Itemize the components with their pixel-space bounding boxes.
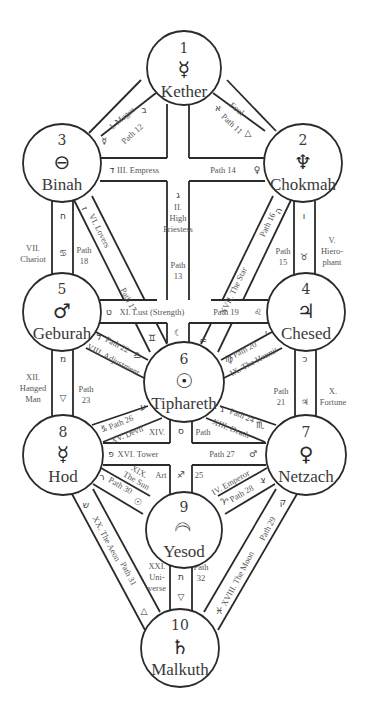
path-25-card-line1: XIV. <box>149 427 165 437</box>
hebrew-nun-icon: נ <box>220 404 224 414</box>
path-32-card-line3: verse <box>148 583 166 593</box>
sephirah-netzach[interactable]: 7 ♀ Netzach <box>266 415 346 495</box>
mercury-icon: ☿ <box>178 57 190 81</box>
earth-bar-icon: ⊖ <box>54 150 71 174</box>
path-21-number-line2: 21 <box>277 397 286 407</box>
path-21-card-line2: Fortune <box>320 397 347 407</box>
sephirah-name: Hod <box>48 467 78 486</box>
path-15-card-line2: Hiero- <box>321 246 343 256</box>
path-32-card-line2: Uni- <box>149 572 165 582</box>
path-25-number-line1: Path <box>195 427 211 437</box>
sephirah-name: Chokmah <box>270 175 337 194</box>
neptune-icon: ♆ <box>294 150 312 174</box>
earth-triangle-icon: ▽ <box>178 592 185 602</box>
tree-of-life-diagram: א Fool △ Path 11 ב I. Magus ☿ Path 12 ד … <box>0 0 368 720</box>
path-18-number-line2: 18 <box>80 256 89 266</box>
sun-small-icon: ☉ <box>134 497 142 507</box>
sephirah-chesed[interactable]: 4 ♃ Chesed <box>267 273 345 351</box>
aries-icon: ♈ <box>220 497 229 507</box>
cancer-icon: ♋ <box>59 248 67 258</box>
hebrew-lamed-icon: ל <box>96 332 101 342</box>
sephirah-hod[interactable]: 8 ☿ Hod <box>23 415 103 495</box>
hebrew-gimel-icon: ג <box>176 190 180 200</box>
hebrew-teth-icon: ט <box>106 307 112 317</box>
hebrew-samekh-icon: ס <box>178 426 184 436</box>
sephirah-malkuth[interactable]: 10 ♄ Malkuth <box>141 609 219 687</box>
sephirah-number: 5 <box>58 281 67 297</box>
path-15-number-line1: Path <box>275 246 291 256</box>
sephirah-number: 3 <box>58 132 67 148</box>
sephirah-name: Geburah <box>33 324 92 343</box>
hebrew-vav-icon: ו <box>303 211 305 221</box>
sephirah-number: 1 <box>180 40 189 56</box>
path-18-card-line2: Chariot <box>20 254 46 264</box>
sephirah-binah[interactable]: 3 ⊖ Binah <box>23 124 101 202</box>
sephirah-kether[interactable]: 1 ☿ Kether <box>147 31 221 105</box>
mars-icon: ♂ <box>53 299 71 323</box>
water-triangle-icon: ▽ <box>60 393 67 403</box>
sephirah-yesod[interactable]: 9 ☽ Yesod <box>146 492 222 568</box>
sephirah-geburah[interactable]: 5 ♂ Geburah <box>23 273 101 351</box>
leo-icon: ♌ <box>254 307 262 317</box>
mercury-icon: ☿ <box>57 442 69 466</box>
hebrew-yod-icon: י <box>265 328 267 338</box>
saturn-icon: ♄ <box>171 635 189 659</box>
venus-icon: ♀ <box>299 442 314 466</box>
sephirah-name: Chesed <box>281 324 332 343</box>
path-19-label: ט XI. Lust (Strength) Path 19 ♌ <box>106 307 262 317</box>
path-23-number-line1: Path <box>78 384 94 394</box>
path-23-card-line3: Man <box>25 394 41 404</box>
hebrew-kaph-icon: כ <box>303 354 308 364</box>
path-12-number: Path 12 <box>119 121 145 146</box>
jupiter-small-icon: ♃ <box>301 397 309 407</box>
hebrew-beth-icon: ב <box>141 105 146 115</box>
moon-small-icon: ☾ <box>174 328 182 338</box>
path-13-number-line2: 13 <box>174 271 183 281</box>
path-27-number: Path 27 <box>209 449 235 459</box>
scorpio-icon: ♏ <box>256 420 264 430</box>
sagittarius-icon: ♐ <box>177 470 185 480</box>
sephirah-chokmah[interactable]: 2 ♆ Chokmah <box>264 124 342 202</box>
capricorn-icon: ♑ <box>100 424 108 434</box>
air-triangle-icon: △ <box>245 128 252 138</box>
hebrew-resh-icon: ר <box>99 472 104 482</box>
fire-triangle-icon: △ <box>141 606 148 616</box>
sephirah-name: Binah <box>42 175 83 194</box>
path-32-number-line2: 32 <box>197 573 206 583</box>
mars-small-icon: ♂ <box>249 449 257 459</box>
path-13-card-line1: II. <box>174 202 182 212</box>
path-27-card: XVI. Tower <box>118 449 159 459</box>
hebrew-aleph-icon: א <box>215 103 221 113</box>
path-21-card-line1: X. <box>329 386 337 396</box>
path-25-number-line2: 25 <box>195 470 204 480</box>
sephirah-name: Kether <box>161 82 208 101</box>
hebrew-ayin-icon: ע <box>140 402 146 412</box>
virgo-icon: ♍ <box>225 354 233 364</box>
path-18-card-line1: VII. <box>26 243 40 253</box>
path-14-number: Path 14 <box>210 165 236 175</box>
sephirah-number: 4 <box>302 281 311 297</box>
venus-small-icon: ♀ <box>254 165 261 175</box>
moon-icon: ☽ <box>171 521 195 539</box>
taurus-icon: ♉ <box>300 252 308 262</box>
path-23-card-line1: XII. <box>26 372 40 382</box>
sun-icon: ☉ <box>175 369 193 393</box>
hebrew-cheth-icon: ח <box>60 211 66 221</box>
path-13-card-line3: Priestess <box>163 224 193 234</box>
sephirah-name: Tiphareth <box>151 394 217 413</box>
sephirah-number: 10 <box>171 617 189 633</box>
sephirah-name: Malkuth <box>151 660 209 679</box>
jupiter-icon: ♃ <box>297 299 315 323</box>
hebrew-mem-icon: מ <box>60 354 66 364</box>
hebrew-shin-icon: ש <box>83 500 89 510</box>
hebrew-pe-icon: פ <box>108 449 114 459</box>
path-13-number-line1: Path <box>170 260 186 270</box>
gemini-icon: ♊ <box>148 333 156 343</box>
pisces-icon: ♓ <box>215 606 223 616</box>
path-23-card-line2: Hanged <box>20 383 47 393</box>
hebrew-daleth-icon: ד <box>110 165 115 175</box>
path-23-number-line2: 23 <box>82 395 91 405</box>
path-19-card: XI. Lust (Strength) <box>120 307 185 317</box>
sephirah-tiphareth[interactable]: 6 ☉ Tiphareth <box>144 342 224 422</box>
sephirah-number: 8 <box>59 424 68 440</box>
